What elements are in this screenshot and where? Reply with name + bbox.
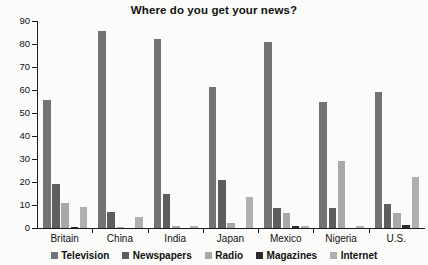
y-tick-label: 90: [4, 16, 30, 26]
legend-label: Internet: [341, 251, 378, 261]
bar: [273, 208, 281, 228]
y-tick-mark: [32, 159, 37, 160]
legend-label: Television: [61, 251, 109, 261]
bar: [218, 180, 226, 228]
bar: [319, 102, 327, 229]
bar: [172, 226, 180, 228]
bar-group: [93, 21, 148, 228]
y-tick-label: 40: [4, 131, 30, 141]
bar-group: [259, 21, 314, 228]
legend-swatch-icon: [205, 252, 212, 259]
legend-swatch-icon: [122, 252, 129, 259]
bar: [163, 194, 171, 229]
bar-chart: Where do you get your news? 010203040506…: [0, 0, 428, 265]
bar: [135, 217, 143, 229]
chart-legend: TelevisionNewspapersRadioMagazinesIntern…: [0, 248, 428, 263]
y-tick-label: 30: [4, 154, 30, 164]
bar: [246, 197, 254, 228]
x-tick-label: Nigeria: [313, 232, 368, 245]
y-tick-label: 60: [4, 85, 30, 95]
legend-item[interactable]: Internet: [330, 251, 377, 261]
bar: [292, 226, 300, 228]
x-tick-label: Mexico: [258, 232, 313, 245]
bar-groups: [38, 21, 425, 228]
y-tick-label: 80: [4, 39, 30, 49]
bar: [402, 225, 410, 228]
y-tick-mark: [32, 113, 37, 114]
bar: [190, 226, 198, 228]
bar-group: [314, 21, 369, 228]
y-tick-mark: [32, 228, 37, 229]
bar: [384, 204, 392, 228]
y-tick-mark: [32, 182, 37, 183]
bar: [375, 92, 383, 228]
bar-group: [149, 21, 204, 228]
bar: [52, 184, 60, 228]
bar: [117, 227, 125, 228]
x-tick-label: Britain: [37, 232, 92, 245]
legend-label: Radio: [215, 251, 243, 261]
x-tick-label: Japan: [203, 232, 258, 245]
bar: [283, 213, 291, 228]
y-tick-mark: [32, 67, 37, 68]
bar: [356, 226, 364, 228]
y-axis-labels: 0102030405060708090: [0, 0, 30, 265]
y-tick-mark: [32, 136, 37, 137]
bar: [154, 39, 162, 228]
bar: [301, 226, 309, 228]
bar: [338, 161, 346, 228]
y-tick-label: 10: [4, 200, 30, 210]
x-axis-line: [37, 228, 425, 229]
legend-item[interactable]: Newspapers: [122, 251, 191, 261]
legend-swatch-icon: [51, 252, 58, 259]
y-tick-mark: [32, 205, 37, 206]
y-tick-mark: [32, 90, 37, 91]
bar-group: [204, 21, 259, 228]
y-tick-label: 70: [4, 62, 30, 72]
bar: [80, 207, 88, 228]
legend-item[interactable]: Television: [51, 251, 110, 261]
legend-item[interactable]: Magazines: [256, 251, 317, 261]
legend-label: Magazines: [267, 251, 318, 261]
bar: [412, 177, 420, 228]
legend-swatch-icon: [256, 252, 263, 259]
bar: [227, 223, 235, 228]
y-tick-label: 20: [4, 177, 30, 187]
bar-group: [38, 21, 93, 228]
bar: [329, 208, 337, 228]
bar: [61, 203, 69, 228]
chart-title: Where do you get your news?: [0, 4, 428, 16]
bar-group: [370, 21, 425, 228]
legend-swatch-icon: [330, 252, 337, 259]
bar: [107, 212, 115, 228]
legend-item[interactable]: Radio: [205, 251, 243, 261]
x-tick-label: U.S.: [369, 232, 424, 245]
y-tick-label: 50: [4, 108, 30, 118]
bar: [71, 227, 79, 228]
y-tick-mark: [32, 44, 37, 45]
legend-label: Newspapers: [133, 251, 192, 261]
bar: [393, 213, 401, 228]
x-axis-labels: BritainChinaIndiaJapanMexicoNigeriaU.S.: [37, 232, 425, 247]
y-tick-label: 0: [4, 223, 30, 233]
bar: [209, 87, 217, 228]
bar: [264, 42, 272, 228]
x-tick-label: India: [148, 232, 203, 245]
bar: [43, 100, 51, 228]
y-tick-mark: [32, 21, 37, 22]
bar: [98, 31, 106, 228]
x-tick-label: China: [92, 232, 147, 245]
